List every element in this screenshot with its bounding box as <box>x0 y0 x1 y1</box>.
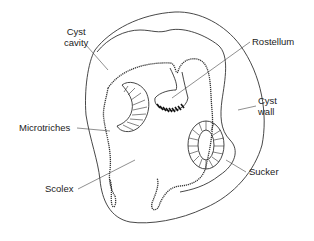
label-scolex: Scolex <box>45 183 74 194</box>
lower-sucker <box>188 121 224 169</box>
leader-scolex <box>78 160 135 189</box>
upper-sucker <box>117 82 149 131</box>
leader-cyst-wall <box>238 106 256 110</box>
label-microtriches: Microtriches <box>19 122 70 133</box>
label-sucker: Sucker <box>249 166 279 177</box>
label-rostellum: Rostellum <box>252 36 294 47</box>
scolex-outline <box>108 59 213 210</box>
scolex-left-outline <box>103 88 115 207</box>
leader-sucker <box>226 160 246 172</box>
label-cyst-cavity: Cyst cavity <box>64 26 88 48</box>
label-cyst-wall: Cyst wall <box>258 95 277 117</box>
